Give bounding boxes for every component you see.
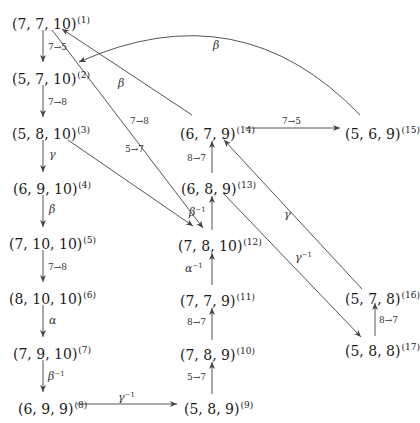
- node-16-index: (16): [401, 290, 419, 300]
- edge-label-11-12-sup: −1: [192, 262, 202, 270]
- node-17: (5, 8, 8)(17): [345, 339, 420, 359]
- node-4-label: (6, 9, 10): [13, 181, 77, 197]
- node-10-label: (7, 8, 9): [180, 347, 235, 363]
- edge-label-1-12: 7→8: [130, 116, 149, 126]
- edge-label-1-2: 7→5: [48, 42, 67, 52]
- node-12-index: (12): [243, 237, 261, 247]
- edge-label-16-14: γ: [284, 210, 291, 220]
- edge-label-2-3: 7→8: [48, 97, 67, 107]
- node-13-index: (13): [237, 180, 255, 190]
- edge-label-8-9-sup: −1: [125, 391, 135, 399]
- node-5-index: (5): [83, 235, 96, 245]
- edge-label-13-14: 8→7: [187, 153, 206, 163]
- edge-label-5-6: 7→8: [48, 262, 67, 272]
- node-3-label: (5, 8, 10): [12, 126, 76, 142]
- edge-label-7-8: β−1: [48, 369, 65, 382]
- edge-label-15-2: β: [213, 41, 219, 51]
- node-2-index: (2): [77, 70, 90, 80]
- node-3: (5, 8, 10)(3): [12, 122, 90, 142]
- node-16: (5, 7, 8)(16): [345, 287, 420, 307]
- edge-label-11-12: α−1: [185, 261, 203, 274]
- edge-label-10-11: 8→7: [187, 317, 206, 327]
- node-15-index: (15): [401, 125, 419, 135]
- node-6-label: (8, 10, 10): [9, 291, 82, 307]
- node-12-label: (7, 8, 10): [178, 238, 242, 254]
- node-3-index: (3): [77, 125, 90, 135]
- node-16-label: (5, 7, 8): [345, 291, 400, 307]
- edge-label-13-17: γ−1: [295, 250, 312, 263]
- edge-label-14-15: 7→5: [282, 116, 301, 126]
- node-11: (7, 7, 9)(11): [180, 289, 255, 309]
- node-1: (7, 7, 10)(1): [12, 12, 90, 32]
- node-4-index: (4): [78, 180, 91, 190]
- edge-label-4-5: β: [49, 205, 55, 215]
- node-7-label: (7, 9, 10): [13, 346, 77, 362]
- node-5-label: (7, 10, 10): [9, 236, 82, 252]
- node-8-index: (8): [74, 400, 87, 410]
- node-15: (5, 6, 9)(15): [345, 122, 420, 142]
- edge-label-13-17-sup: −1: [302, 251, 312, 259]
- node-13-label: (6, 8, 9): [181, 181, 236, 197]
- edge-label-6-7: α: [49, 316, 56, 326]
- node-6-index: (6): [83, 290, 96, 300]
- node-5: (7, 10, 10)(5): [9, 232, 96, 252]
- node-14-label: (6, 7, 9): [180, 126, 235, 142]
- node-8: (6, 9, 9)(8): [18, 397, 87, 417]
- edge-label-17-16: 8→7: [379, 315, 398, 325]
- node-11-index: (11): [236, 292, 254, 302]
- node-11-label: (7, 7, 9): [180, 293, 235, 309]
- edge-label-8-9-base: γ: [118, 391, 125, 404]
- node-7: (7, 9, 10)(7): [13, 342, 91, 362]
- node-2-label: (5, 7, 10): [12, 71, 76, 87]
- node-17-index: (17): [401, 342, 419, 352]
- edge-label-3-12: 5→7: [125, 144, 144, 154]
- edge-label-12-13: β−1: [189, 205, 206, 218]
- node-15-label: (5, 6, 9): [345, 126, 400, 142]
- node-7-index: (7): [78, 345, 91, 355]
- edge-label-14-1: β: [118, 79, 124, 89]
- edge-label-9-10: 5→7: [187, 372, 206, 382]
- node-13: (6, 8, 9)(13): [181, 177, 256, 197]
- node-10-index: (10): [236, 346, 254, 356]
- node-1-label: (7, 7, 10): [12, 16, 76, 32]
- edge-label-3-4: γ: [49, 150, 56, 160]
- node-4: (6, 9, 10)(4): [13, 177, 91, 197]
- edge-label-13-17-base: γ: [295, 251, 302, 264]
- node-10: (7, 8, 9)(10): [180, 343, 255, 363]
- node-2: (5, 7, 10)(2): [12, 67, 90, 87]
- edge-label-8-9: γ−1: [118, 390, 135, 403]
- node-8-label: (6, 9, 9): [18, 401, 73, 417]
- edge-15-2: [79, 36, 360, 115]
- node-9: (5, 8, 9)(9): [184, 397, 253, 417]
- node-9-label: (5, 8, 9): [184, 401, 239, 417]
- node-9-index: (9): [240, 400, 253, 410]
- node-12: (7, 8, 10)(12): [178, 234, 262, 254]
- node-17-label: (5, 8, 8): [345, 343, 400, 359]
- node-1-index: (1): [77, 15, 90, 25]
- node-14: (6, 7, 9)(14): [180, 122, 255, 142]
- edge-label-12-13-sup: −1: [195, 206, 205, 214]
- edge-label-7-8-sup: −1: [54, 370, 64, 378]
- node-6: (8, 10, 10)(6): [9, 287, 96, 307]
- node-14-index: (14): [236, 125, 254, 135]
